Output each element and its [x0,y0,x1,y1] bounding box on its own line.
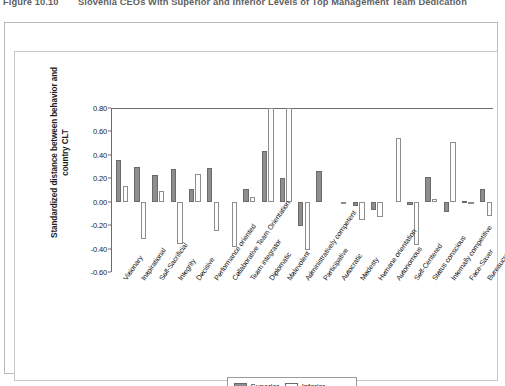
bar-superior [425,177,430,202]
figure-number: Figure 10.10 [3,0,58,9]
y-tick-label: -0.60 [91,268,107,277]
bar-inferior [177,202,182,244]
legend-label-superior: Superior [251,382,280,386]
bar-inferior [359,202,364,221]
y-tick-mark [108,108,111,109]
y-tick-label: 0.40 [93,150,107,159]
y-tick-label: -0.20 [91,221,107,230]
y-tick-label: 0.00 [93,197,107,206]
bar-superior [116,160,121,202]
y-axis-line [111,108,112,272]
bar-superior [262,151,267,201]
chart-legend: Superior Inferior n = 17 n = 10 [227,377,357,386]
bar-superior [207,168,212,202]
bar-inferior [341,202,346,204]
bar-inferior [250,197,255,202]
bar-superior [371,202,376,210]
y-tick-mark [108,248,111,249]
bar-superior [480,189,485,202]
y-tick-mark [108,201,111,202]
bar-inferior [487,202,492,216]
bar-superior [243,189,248,202]
chart-panel: Standardized distance between behavior a… [14,51,498,381]
y-tick-label: 0.60 [93,127,107,136]
y-axis-title: Standardized distance between behavior a… [50,58,71,248]
bar-superior [407,202,412,206]
bar-inferior [141,202,146,239]
zero-baseline [111,108,493,109]
bar-inferior [468,202,473,204]
figure-title: Slovenia CEOs With Superior and Inferior… [78,0,498,9]
bar-superior [189,189,194,202]
y-tick-label: 0.20 [93,174,107,183]
bar-inferior [396,138,401,201]
bar-inferior [377,202,382,217]
bar-superior [444,202,449,213]
y-tick-mark [108,178,111,179]
legend-entry-inferior: Inferior [285,382,325,386]
bar-superior [353,202,358,207]
legend-label-inferior: Inferior [302,382,326,386]
y-tick-mark [108,272,111,273]
bar-inferior [414,202,419,245]
y-tick-mark [108,131,111,132]
bar-superior [171,169,176,202]
y-tick-label: 0.80 [93,104,107,113]
bar-superior [134,167,139,202]
bar-superior [316,171,321,201]
bar-inferior [268,108,273,202]
figure-frame: Standardized distance between behavior a… [4,22,498,374]
y-tick-mark [108,225,111,226]
y-tick-label: -0.40 [91,244,107,253]
bar-superior [298,202,303,227]
bar-inferior [214,202,219,231]
bar-superior [462,201,467,203]
legend-entry-superior: Superior [234,382,279,386]
bar-inferior [450,142,455,202]
bar-inferior [123,186,128,201]
bar-inferior [432,199,437,201]
bar-superior [152,175,157,202]
bar-inferior [305,202,310,250]
bar-inferior [159,191,164,202]
figure-page: Figure 10.10 Slovenia CEOs With Superior… [0,0,505,386]
y-tick-mark [108,154,111,155]
bar-inferior [195,174,200,202]
bar-inferior [286,108,291,202]
